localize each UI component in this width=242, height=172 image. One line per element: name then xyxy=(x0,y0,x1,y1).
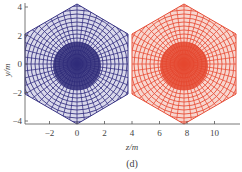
y-tick-label: 2 xyxy=(18,31,23,41)
y-axis-label: y/m xyxy=(2,63,12,77)
x-tick-label: 2 xyxy=(102,128,107,138)
blue-mesh-series xyxy=(7,0,147,134)
y-tick-label: 0 xyxy=(18,59,23,69)
x-tick-label: 8 xyxy=(185,128,190,138)
y-tick-label: −2 xyxy=(12,88,22,98)
chart: −4−2024 y/m −20246810 z/m (d) xyxy=(0,0,242,172)
red-mesh-series xyxy=(114,0,242,134)
y-tick-label: −4 xyxy=(12,116,22,126)
x-tick-label: 10 xyxy=(210,128,220,138)
x-tick-label: −2 xyxy=(45,128,55,138)
x-tick-label: 6 xyxy=(157,128,162,138)
x-tick-label: 4 xyxy=(130,128,135,138)
x-axis-label: z/m xyxy=(125,142,139,152)
y-axis: −4−2024 y/m xyxy=(2,2,28,126)
x-axis: −20246810 z/m xyxy=(25,121,240,152)
y-tick-label: 4 xyxy=(18,2,23,12)
x-tick-label: 0 xyxy=(75,128,80,138)
figure-caption: (d) xyxy=(126,158,138,170)
